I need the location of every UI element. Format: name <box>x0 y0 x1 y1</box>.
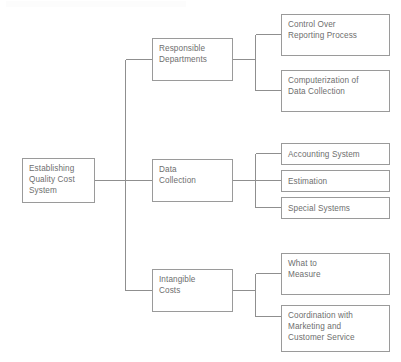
node-branch-data-collection[interactable]: Data Collection <box>152 159 233 202</box>
node-leaf-special-systems[interactable]: Special Systems <box>281 197 390 219</box>
node-leaf-accounting-system[interactable]: Accounting System <box>281 143 390 165</box>
node-leaf-computerization-of-data-collection[interactable]: Computerization of Data Collection <box>281 70 390 112</box>
node-leaf-coordination-with-marketing-and-customer-service[interactable]: Coordination with Marketing and Customer… <box>281 305 390 352</box>
node-leaf-what-to-measure[interactable]: What to Measure <box>281 253 390 295</box>
quality-cost-system-diagram: Establishing Quality Cost System Respons… <box>0 0 401 362</box>
node-leaf-control-over-reporting-process[interactable]: Control Over Reporting Process <box>281 14 390 56</box>
node-leaf-estimation[interactable]: Estimation <box>281 170 390 192</box>
top-edge-artifact <box>6 1 186 7</box>
node-branch-responsible-departments[interactable]: Responsible Departments <box>152 38 233 81</box>
node-branch-intangible-costs[interactable]: Intangible Costs <box>152 269 233 312</box>
node-root[interactable]: Establishing Quality Cost System <box>22 158 95 203</box>
